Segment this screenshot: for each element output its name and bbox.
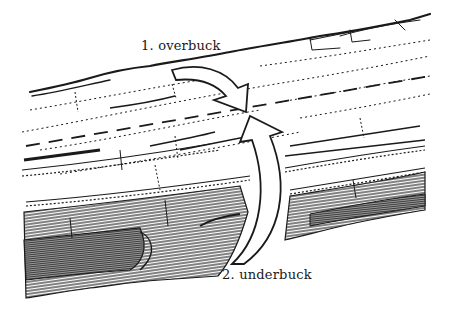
log-lower-bark-left [24, 150, 248, 298]
overbuck-label: 1. overbuck [141, 38, 221, 53]
underbuck-label: 2. underbuck [222, 267, 312, 282]
curved-arrow-down [172, 67, 248, 112]
diagram-canvas: 1. overbuck 2. underbuck [0, 0, 451, 314]
log-lower-bark-right [285, 140, 425, 240]
